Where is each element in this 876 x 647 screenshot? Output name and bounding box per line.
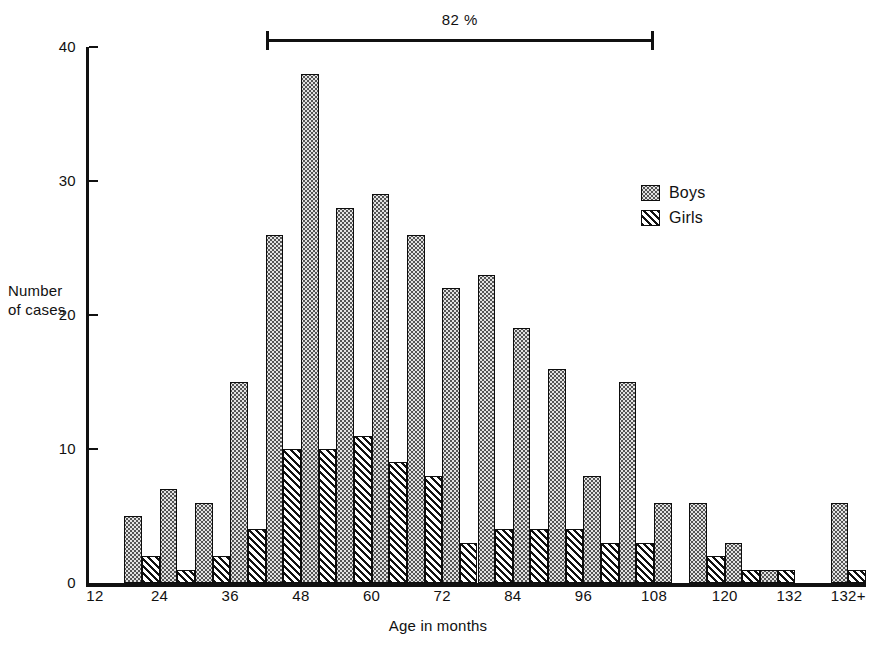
bar-boys-18-24 (124, 516, 142, 583)
x-tick-label-108: 108 (641, 587, 667, 604)
bar-girls-96-102 (601, 543, 619, 583)
x-tick-label-72: 72 (434, 587, 451, 604)
x-axis-label: Age in months (0, 617, 876, 634)
y-axis-line (86, 47, 89, 587)
y-tick-label-40: 40 (42, 38, 76, 55)
bracket-cap-right (651, 31, 654, 50)
bar-boys-102-108 (619, 382, 637, 583)
y-tick-mark-20 (89, 314, 98, 316)
x-tick-label-24: 24 (151, 587, 168, 604)
bar-boys-72-78 (442, 288, 460, 583)
bar-girls-90-96 (566, 529, 584, 583)
bar-boys-108-114 (654, 503, 672, 583)
bar-girls-78-84 (495, 529, 513, 583)
legend-swatch-boys-icon (641, 185, 660, 201)
bar-boys-120-126 (725, 543, 743, 583)
y-tick-mark-30 (89, 180, 98, 182)
y-tick-label-20: 20 (42, 306, 76, 323)
x-tick-label-12: 12 (86, 587, 103, 604)
y-tick-label-30: 30 (42, 172, 76, 189)
bar-girls-84-90 (530, 529, 548, 583)
x-tick-label-60: 60 (363, 587, 380, 604)
bar-girls-72-78 (460, 543, 478, 583)
bar-boys-114-120 (689, 503, 707, 583)
bar-girls-66-72 (425, 476, 443, 583)
bar-girls-60-66 (389, 462, 407, 583)
legend: Boys Girls (641, 182, 705, 232)
x-tick-label-132plus: 132+ (831, 587, 866, 604)
bar-boys-36-42 (230, 382, 248, 583)
bracket-line (266, 39, 655, 42)
bar-boys-42-48 (266, 235, 284, 583)
x-tick-label-84: 84 (504, 587, 521, 604)
y-tick-label-0: 0 (42, 574, 76, 591)
x-tick-label-132: 132 (776, 587, 802, 604)
bar-girls-126-132 (778, 570, 796, 583)
bar-boys-78-84 (478, 275, 496, 583)
bar-girls-36-42 (248, 529, 266, 583)
bar-boys-60-66 (372, 194, 390, 583)
bar-boys-54-60 (336, 208, 354, 583)
bar-boys-48-54 (301, 74, 319, 583)
bar-boys-132+ (831, 503, 849, 583)
bar-girls-120-126 (742, 570, 760, 583)
x-axis-line (86, 583, 866, 587)
bar-girls-54-60 (354, 436, 372, 583)
bar-boys-24-30 (160, 489, 178, 583)
span-annotation-label: 82 % (266, 11, 655, 28)
x-tick-label-48: 48 (292, 587, 309, 604)
bar-girls-18-24 (142, 556, 160, 583)
legend-label-girls: Girls (669, 209, 703, 227)
bracket-cap-left (266, 31, 269, 50)
legend-item-boys: Boys (641, 182, 705, 204)
bar-boys-66-72 (407, 235, 425, 583)
y-tick-label-10: 10 (42, 440, 76, 457)
span-annotation-bracket: 82 % (266, 39, 655, 40)
legend-label-boys: Boys (669, 184, 705, 202)
bar-girls-42-48 (283, 449, 301, 583)
x-tick-label-36: 36 (222, 587, 239, 604)
x-tick-label-120: 120 (712, 587, 738, 604)
bar-boys-126-132 (760, 570, 778, 583)
bar-girls-114-120 (707, 556, 725, 583)
legend-item-girls: Girls (641, 207, 705, 229)
bar-girls-132+ (848, 570, 866, 583)
bar-girls-102-108 (636, 543, 654, 583)
y-tick-mark-10 (89, 448, 98, 450)
bar-boys-96-102 (583, 476, 601, 583)
bar-boys-90-96 (548, 369, 566, 583)
legend-swatch-girls-icon (641, 210, 660, 226)
y-tick-mark-40 (89, 46, 98, 48)
bar-boys-30-36 (195, 503, 213, 583)
bar-girls-24-30 (177, 570, 195, 583)
x-tick-label-96: 96 (575, 587, 592, 604)
histogram-figure: Number of cases Age in months 010203040 … (0, 0, 876, 647)
bar-girls-30-36 (213, 556, 231, 583)
bar-girls-48-54 (319, 449, 337, 583)
bar-boys-84-90 (513, 328, 531, 583)
